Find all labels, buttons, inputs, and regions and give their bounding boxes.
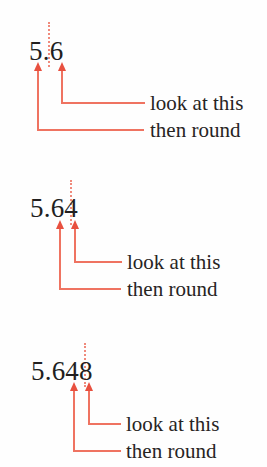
round-digit-arrow-icon [37, 69, 39, 131]
rounding-example-one-decimal-place: 5.6 look at this then round [0, 0, 267, 155]
look-at-digit-arrow-icon [88, 389, 90, 425]
numeral-value: 5.64 [30, 195, 78, 222]
round-digit-arrow-icon [73, 389, 75, 452]
look-at-this-leader-line [88, 423, 121, 425]
round-digit-arrow-icon [59, 227, 61, 290]
look-at-this-label: look at this [126, 414, 219, 435]
then-round-leader-line [37, 129, 144, 131]
then-round-label: then round [127, 279, 217, 300]
then-round-label: then round [126, 441, 216, 462]
rounding-diagram: 5.6 look at this then round 5.64 look at… [0, 0, 267, 467]
then-round-leader-line [59, 288, 121, 290]
rounding-example-two-decimal-places: 5.64 look at this then round [0, 155, 267, 315]
look-at-this-leader-line [61, 102, 145, 104]
then-round-label: then round [150, 120, 240, 141]
numeral-value: 5.648 [31, 358, 93, 385]
then-round-leader-line [73, 450, 121, 452]
look-at-this-label: look at this [127, 252, 220, 273]
look-at-digit-arrow-icon [74, 227, 76, 263]
look-at-this-leader-line [74, 261, 122, 263]
rounding-example-three-decimal-places: 5.648 look at this then round [0, 315, 267, 467]
numeral-value: 5.6 [29, 38, 63, 65]
look-at-digit-arrow-icon [61, 69, 63, 104]
look-at-this-label: look at this [150, 93, 243, 114]
